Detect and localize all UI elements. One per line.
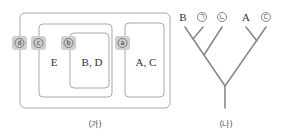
leaf-B: B [179, 11, 186, 23]
svg-text:a: a [121, 39, 125, 47]
figure: d c b a E B, D A, C (가) B [0, 0, 282, 140]
svg-text:c: c [37, 39, 41, 47]
caption-na: (나) [219, 120, 232, 129]
leaf-nieun: ㄴ [218, 13, 227, 22]
box-a-content: A, C [136, 56, 157, 68]
caption-ga: (가) [88, 120, 101, 129]
venn-diagram-ga: d c b a E B, D A, C (가) [12, 13, 170, 129]
tag-c: c [31, 36, 46, 50]
box-b-content: B, D [82, 56, 103, 68]
svg-text:ㄷ: ㄷ [263, 13, 269, 21]
tag-b: b [61, 36, 76, 50]
svg-text:b: b [66, 39, 70, 47]
leaf-giyeok: ㄱ [198, 13, 207, 22]
svg-text:ㄱ: ㄱ [199, 13, 205, 21]
box-c-content: E [51, 56, 58, 68]
cladogram-na: B ㄱ ㄴ A ㄷ (나) [179, 11, 270, 129]
leaf-digeut: ㄷ [262, 13, 271, 22]
svg-text:ㄴ: ㄴ [219, 13, 225, 21]
leaf-A: A [242, 11, 250, 23]
tag-a: a [115, 36, 130, 50]
svg-text:d: d [17, 39, 21, 47]
tag-d: d [12, 36, 27, 50]
